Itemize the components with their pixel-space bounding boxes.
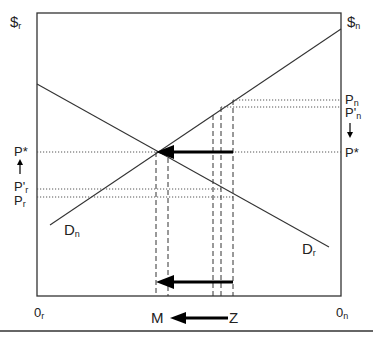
right-p-star-label: P* bbox=[345, 146, 359, 159]
demand-r-line bbox=[37, 84, 329, 247]
left-p-star-label: P* bbox=[14, 145, 28, 158]
left-up-arrow-icon bbox=[17, 159, 23, 174]
left-axis-label: $r bbox=[10, 14, 21, 31]
price-guides bbox=[37, 100, 341, 197]
demand-n-line bbox=[50, 29, 341, 225]
m-z-arrow bbox=[170, 312, 228, 324]
right-axis-label: $n bbox=[347, 14, 360, 31]
right-down-arrow-icon bbox=[347, 123, 353, 138]
m-label: M bbox=[151, 310, 164, 325]
left-p-r-label: Pr bbox=[14, 194, 26, 209]
z-label: Z bbox=[229, 310, 238, 325]
diagram-canvas bbox=[0, 0, 373, 338]
demand-n-label: Dn bbox=[64, 222, 80, 239]
quantity-guides bbox=[156, 100, 233, 296]
demand-r-label: Dr bbox=[302, 241, 316, 258]
plot-frame bbox=[37, 13, 341, 296]
right-p-prime-n-label: P'n bbox=[345, 106, 361, 121]
origin-right-label: 0n bbox=[336, 306, 348, 321]
origin-left-label: 0r bbox=[34, 306, 44, 321]
